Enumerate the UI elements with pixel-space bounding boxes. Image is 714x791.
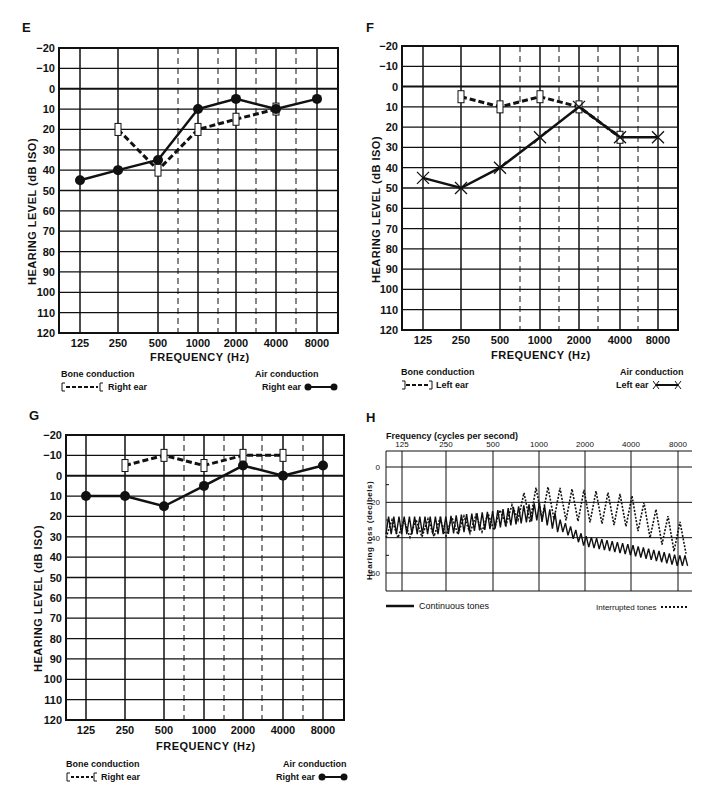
svg-text:500: 500: [486, 440, 500, 449]
svg-text:125: 125: [395, 440, 409, 449]
h-x-axis-title: Frequency (cycles per second): [386, 431, 518, 441]
bekesy-audiogram-h: 02040601252505001000200040008000: [0, 0, 714, 791]
svg-text:2000: 2000: [576, 440, 594, 449]
solid-line-legend-icon: [386, 601, 416, 611]
svg-text:4000: 4000: [622, 440, 640, 449]
h-y-axis-title: Hearing loss (decibels): [365, 481, 374, 580]
legend-interrupted-h: Interrupted tones: [596, 602, 689, 612]
svg-text:0: 0: [376, 463, 381, 472]
svg-text:250: 250: [439, 440, 453, 449]
svg-text:1000: 1000: [530, 440, 548, 449]
svg-text:8000: 8000: [669, 440, 687, 449]
legend-interrupted-label: Interrupted tones: [596, 603, 656, 612]
legend-continuous-h: Continuous tones: [386, 601, 489, 611]
dotted-line-legend-icon: [659, 602, 689, 612]
legend-continuous-label: Continuous tones: [419, 601, 489, 611]
